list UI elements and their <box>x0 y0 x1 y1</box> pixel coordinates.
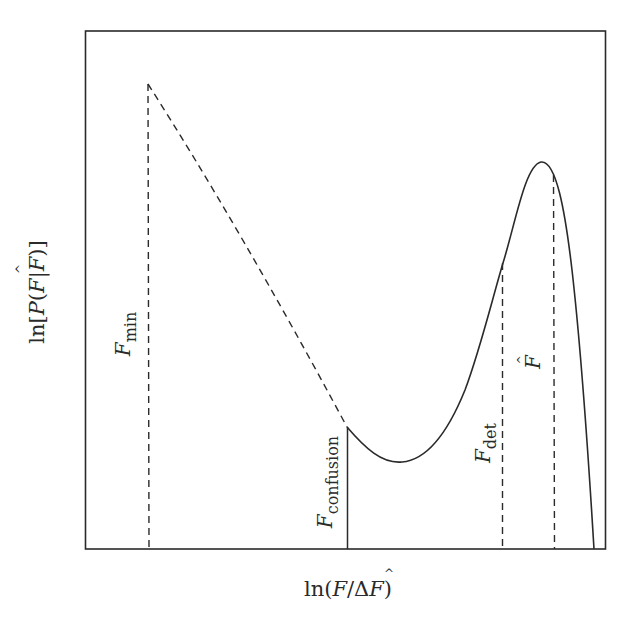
f-det-label: Fdet <box>471 422 500 464</box>
y-label-hat: ^ <box>14 264 28 274</box>
svg-text:ln(F/ΔF): ln(F/ΔF) <box>304 577 392 601</box>
svg-text:Fconfusion: Fconfusion <box>313 436 342 529</box>
f-min-line <box>148 84 149 549</box>
svg-text:ln[P(F|F)]: ln[P(F|F)] <box>25 240 50 343</box>
f-hat-label: F ^ <box>515 354 545 370</box>
f-hat-accent: ^ <box>515 355 528 364</box>
x-axis-label: ln(F/ΔF) ^ <box>304 567 394 601</box>
f-min-label: Fmin <box>111 312 140 357</box>
dashed-curve-segment <box>148 84 347 427</box>
f-confusion-label: Fconfusion <box>313 436 342 529</box>
svg-text:Fmin: Fmin <box>111 312 140 357</box>
f-hat-line <box>554 175 555 549</box>
svg-text:Fdet: Fdet <box>471 422 500 464</box>
figure-canvas: ln[P(F|F)] ^ ln(F/ΔF) ^ Fmin Fconfusion <box>0 0 637 629</box>
y-axis-label: ln[P(F|F)] ^ <box>14 240 50 343</box>
x-label-hat: ^ <box>384 567 394 581</box>
probability-distribution-figure: ln[P(F|F)] ^ ln(F/ΔF) ^ Fmin Fconfusion <box>0 0 637 629</box>
solid-curve <box>347 162 594 549</box>
